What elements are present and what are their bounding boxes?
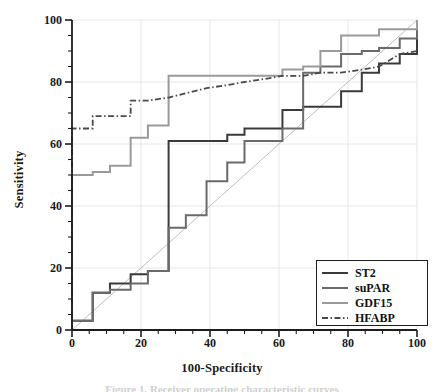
y-tick-label: 100	[32, 13, 62, 28]
x-tick-label: 40	[190, 336, 230, 351]
x-tick-label: 60	[259, 336, 299, 351]
legend-item-label: HFABP	[355, 312, 395, 324]
y-tick-label: 60	[32, 137, 62, 152]
x-tick-label: 80	[328, 336, 368, 351]
legend-item-supar[interactable]: suPAR	[317, 280, 427, 295]
legend-item-label: suPAR	[355, 282, 390, 294]
legend-line-icon	[322, 313, 348, 323]
roc-curve-figure: 100-Specificity Sensitivity 020406080100…	[0, 0, 444, 392]
legend-item-hfabp[interactable]: HFABP	[317, 310, 427, 325]
legend-item-gdf15[interactable]: GDF15	[317, 295, 427, 310]
x-tick-label: 20	[121, 336, 161, 351]
legend-line-icon	[322, 283, 348, 293]
legend-item-label: GDF15	[355, 297, 392, 309]
legend-line-icon	[322, 268, 348, 278]
x-tick-label: 100	[397, 336, 437, 351]
x-axis-title: 100-Specificity	[0, 361, 444, 376]
legend-item-st2[interactable]: ST2	[317, 265, 427, 280]
chart-legend: ST2suPARGDF15HFABP	[316, 260, 428, 326]
legend-item-label: ST2	[355, 267, 376, 279]
y-tick-label: 0	[32, 323, 62, 338]
x-tick-label: 0	[52, 336, 92, 351]
legend-line-icon	[322, 298, 348, 308]
y-tick-label: 40	[32, 199, 62, 214]
y-tick-label: 20	[32, 261, 62, 276]
roc-plot-canvas	[0, 0, 444, 392]
y-axis-title: Sensitivity	[12, 125, 27, 235]
figure-caption: Figure 1. Receiver operating characteris…	[0, 383, 444, 392]
y-tick-label: 80	[32, 75, 62, 90]
